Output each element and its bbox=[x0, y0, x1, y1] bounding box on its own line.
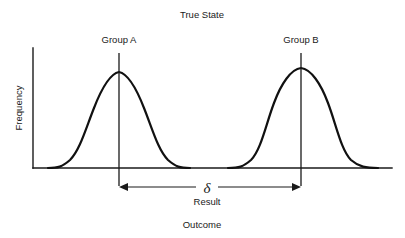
group-b-curve bbox=[228, 68, 378, 168]
x-axis-label: Outcome bbox=[183, 219, 222, 230]
figure-container: True State Frequency Group A Group B δ R bbox=[0, 0, 405, 238]
delta-arrow-head-left bbox=[119, 183, 128, 191]
y-axis-label: Frequency bbox=[13, 85, 24, 130]
delta-symbol: δ bbox=[204, 180, 212, 196]
group-b-label: Group B bbox=[283, 34, 318, 45]
group-a-label: Group A bbox=[102, 34, 138, 45]
delta-caption-result: Result bbox=[194, 196, 221, 207]
delta-arrow-head-right bbox=[292, 183, 301, 191]
chart-title: True State bbox=[180, 9, 224, 20]
true-state-distribution-chart: True State Frequency Group A Group B δ R bbox=[0, 0, 405, 238]
